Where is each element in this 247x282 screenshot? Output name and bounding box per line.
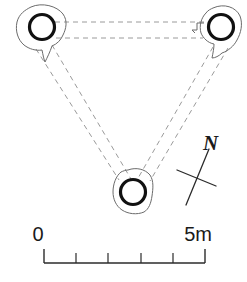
north-arrow-cross-line — [177, 170, 216, 186]
sightlines-group — [36, 22, 228, 181]
north-arrow-main-line — [186, 149, 209, 205]
feature-bottom-center[interactable] — [113, 169, 153, 214]
feature-top-right[interactable] — [192, 6, 241, 58]
site-plan-canvas: N 0 5m — [0, 0, 247, 282]
scale-label-right: 5m — [184, 223, 212, 245]
feature-bottom-center-ring — [121, 180, 146, 205]
sightline-topleft-bottom-b — [52, 45, 131, 179]
sightline-topright-bottom-a — [137, 47, 213, 180]
scale-bar: 0 5m — [32, 223, 212, 263]
scale-label-left: 0 — [32, 223, 43, 245]
north-arrow: N — [177, 131, 219, 205]
sightline-topleft-bottom-a — [36, 49, 119, 180]
feature-top-left-ring — [30, 15, 55, 40]
feature-top-right-ring — [209, 15, 234, 40]
north-label: N — [202, 131, 219, 155]
site-plan-figure: N 0 5m — [0, 0, 247, 282]
sightline-topright-bottom-b — [150, 48, 228, 181]
feature-top-right-notch — [192, 23, 204, 33]
feature-top-left[interactable] — [16, 5, 66, 62]
